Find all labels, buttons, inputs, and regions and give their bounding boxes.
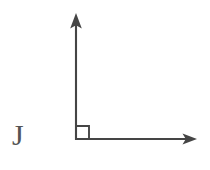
left-glyph-label: J	[12, 120, 24, 150]
figure-canvas: J	[0, 0, 210, 170]
axes-diagram-svg	[0, 0, 210, 170]
right-angle-marker-icon	[76, 126, 89, 139]
